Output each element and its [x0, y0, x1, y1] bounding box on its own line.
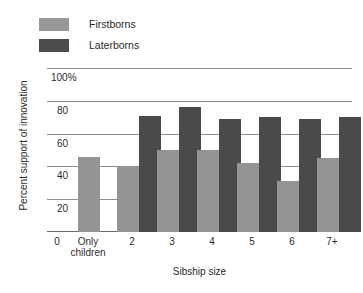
- legend-item-firstborns: Firstborns: [39, 16, 239, 33]
- bar-chart-figure: Firstborns Laterborns Percent support of…: [0, 0, 363, 293]
- bar-firstborns-4: [197, 150, 219, 232]
- legend-item-laterborns: Laterborns: [39, 37, 239, 54]
- dark-gray-swatch-icon: [39, 39, 69, 52]
- y-axis-title: Percent support of innovation: [18, 51, 29, 241]
- x-tick-label-4: 4: [202, 236, 222, 247]
- x-tick-label-only-children: Onlychildren: [63, 236, 113, 258]
- bar-firstborns-only-children: [78, 157, 100, 232]
- x-tick-label-2: 2: [122, 236, 142, 247]
- x-axis-title: Sibship size: [47, 266, 352, 277]
- chart-legend: Firstborns Laterborns: [39, 16, 239, 58]
- bar-firstborns-5: [237, 163, 259, 232]
- bar-firstborns-6: [277, 181, 299, 232]
- x-tick-label-5: 5: [242, 236, 262, 247]
- bar-series-container: [47, 68, 352, 232]
- bar-laterborns-7plus: [339, 117, 361, 232]
- x-tick-only-children-line1: Only: [78, 236, 99, 247]
- bar-firstborns-3: [157, 150, 179, 232]
- bar-firstborns-2: [117, 166, 139, 232]
- x-tick-label-3: 3: [162, 236, 182, 247]
- legend-label-firstborns: Firstborns: [89, 18, 136, 31]
- x-tick-label-6: 6: [282, 236, 302, 247]
- light-gray-swatch-icon: [39, 18, 69, 31]
- x-tick-only-children-line2: children: [70, 247, 105, 258]
- legend-label-laterborns: Laterborns: [89, 39, 139, 52]
- x-tick-label-7plus: 7+: [320, 236, 344, 247]
- bar-firstborns-7plus: [317, 158, 339, 232]
